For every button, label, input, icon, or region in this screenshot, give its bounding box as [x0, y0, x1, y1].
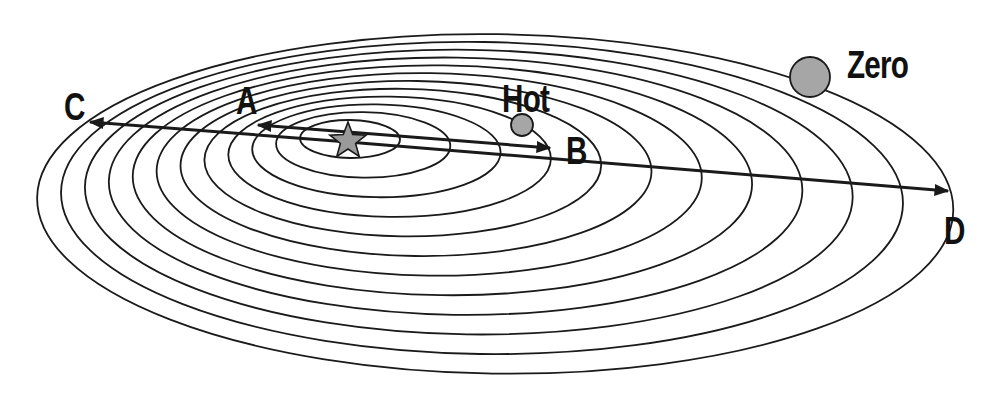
- star-icon: [330, 122, 366, 156]
- label-b: B: [566, 132, 587, 170]
- arrow-to-D-arrow: [348, 142, 948, 191]
- label-c: C: [64, 88, 85, 126]
- label-zero: Zero: [847, 46, 908, 84]
- planet-zero-icon: [790, 57, 830, 97]
- label-hot: Hot: [502, 80, 549, 118]
- orbit-ring: [131, 61, 754, 299]
- label-a: A: [236, 82, 257, 120]
- label-d: D: [944, 212, 965, 250]
